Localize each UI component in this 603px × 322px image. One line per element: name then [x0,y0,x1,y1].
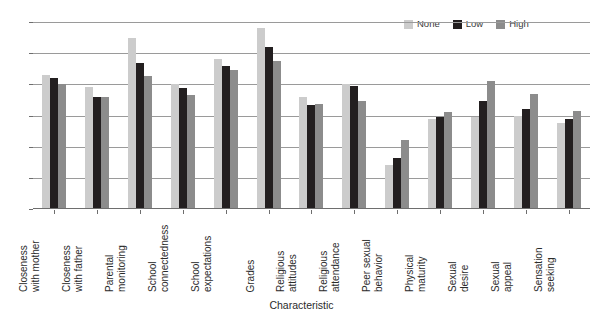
bar-none [171,84,179,209]
bar-low [179,88,187,209]
x-axis-tick-mark [397,210,398,214]
bar-low [50,78,58,209]
y-axis-tick-mark [29,22,33,23]
x-axis-tick-label: Schoolconnectedness [147,210,170,292]
bar-group [119,22,162,209]
x-axis-tick-mark [183,210,184,214]
bar-none [257,28,265,209]
y-axis-tick-mark [29,178,33,179]
x-axis-tick-label: Parentalmonitoring [104,210,127,292]
x-axis-tick-label: Sexualdesire [447,210,470,292]
bar-groups [33,22,590,209]
x-axis-tick-label-line: seeking [544,210,556,292]
x-axis-tick-label-line: behavior [373,210,385,292]
x-axis-tick-mark [226,210,227,214]
y-axis-tick-mark [29,147,33,148]
bar-group [33,22,76,209]
bar-group [204,22,247,209]
bar-high [230,70,238,209]
bar-group [333,22,376,209]
bar-group [419,22,462,209]
x-axis-tick-label-line: connectedness [158,210,170,292]
y-axis-tick-mark [29,53,33,54]
x-axis-tick-label-line: with mother [30,210,42,292]
bar-high [101,97,109,209]
x-axis-tick-label: Closenesswith father [61,210,84,292]
bar-high [187,95,195,209]
bar-none [128,38,136,209]
x-axis-tick-label-line: Religious [275,210,287,292]
x-axis-tick-label: Physicalmaturity [404,210,427,292]
x-axis-tick-mark [483,210,484,214]
x-axis-tick-label: Religiousattitudes [275,210,298,292]
bar-none [214,59,222,209]
x-axis-tick-label-line: Closeness [18,210,30,292]
bar-high [144,76,152,209]
x-axis-tick-label-line: attendance [330,210,342,292]
x-axis-tick-mark [526,210,527,214]
x-axis-tick-label: Schoolexpectations [190,210,213,292]
bar-low [222,66,230,209]
x-axis-tick-label-line: Closeness [61,210,73,292]
x-axis-tick-label-line: expectations [201,210,213,292]
bar-high [530,94,538,209]
x-axis-tick-label-line: School [190,210,202,292]
bar-none [42,75,50,209]
x-axis-tick-label: Sexualappeal [490,210,513,292]
y-axis-tick-mark [29,84,33,85]
x-axis-tick-label-line: Peer sexual [361,210,373,292]
x-axis-tick-label-line: School [147,210,159,292]
x-axis-tick-label: Religiousattendance [318,210,341,292]
bar-none [385,165,393,209]
x-axis-tick-label-line: Sexual [447,210,459,292]
y-axis-tick-mark [29,116,33,117]
bar-low [436,117,444,209]
bar-group [76,22,119,209]
bar-high [358,101,366,209]
x-axis-tick-label: Closenesswith mother [18,210,41,292]
x-axis-tick-mark [311,210,312,214]
bar-low [307,105,315,209]
x-axis-tick-label: Grades [244,210,256,292]
bar-high [487,81,495,209]
x-axis-tick-label-line: Physical [404,210,416,292]
x-axis-tick-mark [354,210,355,214]
x-axis-category-labels: Closenesswith motherClosenesswith father… [33,210,590,292]
x-axis-tick-label: Peer sexualbehavior [361,210,384,292]
x-axis-tick-label-line: with father [73,210,85,292]
bar-high [573,111,581,209]
bar-group [376,22,419,209]
bar-group [504,22,547,209]
x-axis-tick-mark [97,210,98,214]
x-axis-tick-label: Sensationseeking [533,210,556,292]
x-axis-tick-mark [140,210,141,214]
x-axis-tick: Schoolexpectations [204,210,247,292]
bar-low [136,63,144,209]
bar-none [471,117,479,209]
x-axis-tick-label-line: Religious [318,210,330,292]
bar-high [315,104,323,209]
bar-group [290,22,333,209]
bar-group [547,22,590,209]
x-axis-tick-mark [269,210,270,214]
bar-high [444,112,452,209]
x-axis-line [33,208,590,209]
x-axis-tick-label-line: monitoring [116,210,128,292]
bar-group [461,22,504,209]
x-axis-title: Characteristic [0,299,603,311]
x-axis-tick-label-line: attitudes [287,210,299,292]
bar-high [273,61,281,209]
x-axis-tick-label-line: appeal [501,210,513,292]
bar-group [162,22,205,209]
bar-high [401,140,409,209]
bar-low [565,119,573,209]
x-axis-tick-mark [569,210,570,214]
x-axis-tick-label-line: Sensation [533,210,545,292]
grouped-bar-chart: NoneLowHigh 0123456 Closenesswith mother… [0,0,603,322]
bar-none [557,123,565,209]
bar-none [299,97,307,209]
x-axis-tick-label-line: maturity [416,210,428,292]
x-axis-tick: Sensationseeking [547,210,590,292]
bar-low [93,97,101,209]
bar-low [522,109,530,209]
